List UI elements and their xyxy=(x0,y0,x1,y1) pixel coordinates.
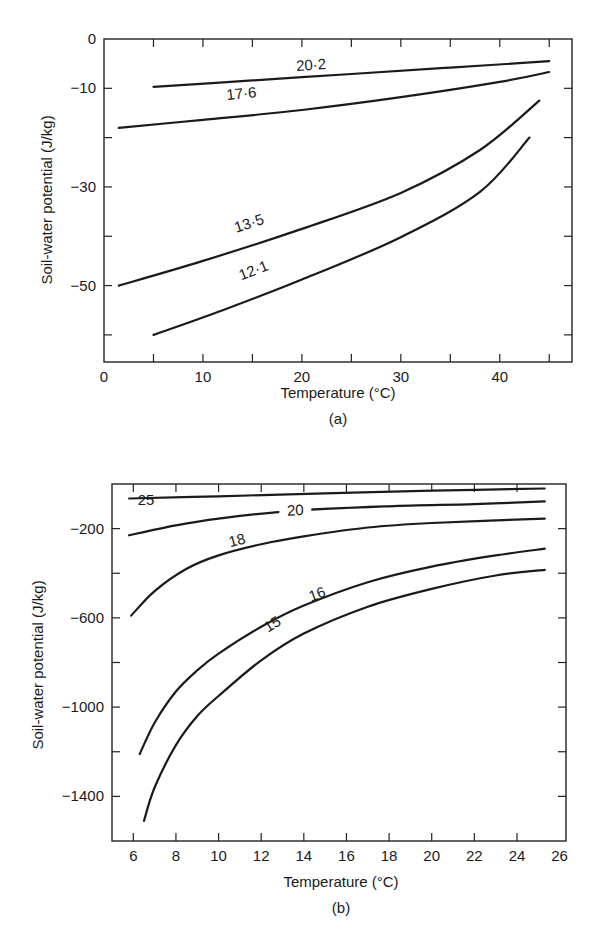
x-tick-label: 10 xyxy=(195,368,212,385)
x-tick-label: 20 xyxy=(294,368,311,385)
curves-a: 20·217·613·512·1 xyxy=(119,55,549,335)
panel-label-a: (a) xyxy=(329,410,347,427)
curve-label: 25 xyxy=(138,491,155,508)
ticks-b xyxy=(112,484,566,841)
curves-b: 2520181615 xyxy=(129,489,545,821)
x-tick-label: 18 xyxy=(381,847,398,864)
x-tick-label: 16 xyxy=(338,847,355,864)
tick-labels-b: 68101214161820222426−200−600−1000−1400 xyxy=(62,520,568,864)
y-tick-label: −200 xyxy=(70,520,104,537)
figure: 0102030400−10−30−50 20·217·613·512·1 Tem… xyxy=(0,0,609,949)
curve-label: 17·6 xyxy=(226,83,258,103)
x-tick-label: 22 xyxy=(466,847,483,864)
x-axis-title-b: Temperature (°C) xyxy=(283,873,398,890)
y-tick-label: 0 xyxy=(88,30,96,47)
curve-label: 12·1 xyxy=(236,257,270,284)
x-tick-label: 26 xyxy=(551,847,568,864)
curve-label: 18 xyxy=(227,529,247,550)
y-axis-title-a: Soil-water potential (J/kg) xyxy=(38,115,55,284)
curve-label: 16 xyxy=(306,583,328,605)
panel-label-b: (b) xyxy=(332,899,350,916)
y-tick-label: −30 xyxy=(71,178,96,195)
curve-12·1 xyxy=(154,138,530,335)
x-tick-label: 0 xyxy=(100,368,108,385)
y-tick-label: −600 xyxy=(70,609,104,626)
y-tick-label: −1400 xyxy=(62,787,104,804)
ticks-a xyxy=(104,39,572,362)
curve-17·6 xyxy=(119,72,549,128)
curve-15 xyxy=(144,570,545,821)
x-tick-label: 6 xyxy=(129,847,137,864)
x-tick-label: 14 xyxy=(295,847,312,864)
x-tick-label: 40 xyxy=(491,368,508,385)
y-tick-label: −50 xyxy=(71,277,96,294)
x-tick-label: 30 xyxy=(392,368,409,385)
x-axis-title-a: Temperature (°C) xyxy=(280,384,395,401)
tick-labels-a: 0102030400−10−30−50 xyxy=(71,30,509,385)
x-tick-label: 20 xyxy=(423,847,440,864)
curve-label: 20·2 xyxy=(296,55,327,74)
y-tick-label: −1000 xyxy=(62,698,104,715)
curve-18 xyxy=(131,519,545,616)
x-tick-label: 10 xyxy=(210,847,227,864)
chart-a: 0102030400−10−30−50 20·217·613·512·1 Tem… xyxy=(38,30,572,427)
chart-b: 68101214161820222426−200−600−1000−1400 2… xyxy=(29,484,568,916)
curve-label: 13·5 xyxy=(232,210,266,235)
plot-frame-a xyxy=(104,39,572,362)
curve-25 xyxy=(129,489,545,499)
curve-16 xyxy=(140,549,545,754)
x-tick-label: 8 xyxy=(172,847,180,864)
curve-20 xyxy=(129,501,545,535)
x-tick-label: 12 xyxy=(253,847,270,864)
plot-frame-b xyxy=(112,484,566,841)
x-tick-label: 24 xyxy=(509,847,526,864)
y-axis-title-b: Soil-water potential (J/kg) xyxy=(29,580,46,749)
curve-13·5 xyxy=(119,101,540,286)
y-tick-label: −10 xyxy=(71,79,96,96)
curve-label: 20 xyxy=(287,501,304,519)
